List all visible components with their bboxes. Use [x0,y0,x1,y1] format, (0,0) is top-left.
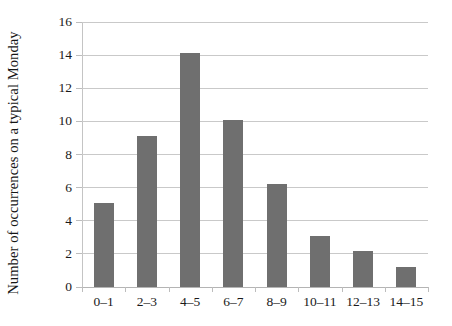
y-tick-label-wrap: 0 [42,280,72,294]
gridline [82,253,428,254]
y-tick-label: 8 [44,148,72,162]
y-tick-label: 0 [44,280,72,294]
gridline [82,154,428,155]
y-tick-label-wrap: 8 [42,148,72,162]
gridline [82,220,428,221]
x-tick-mark [125,287,126,292]
bar [180,53,200,287]
bar-chart: Number of occurrences on a typical Monda… [0,0,452,326]
plot-area [82,22,428,287]
gridline [82,187,428,188]
x-tick-mark [82,287,83,292]
y-tick-label: 2 [44,247,72,261]
x-tick-mark [169,287,170,292]
bar [223,120,243,287]
x-tick-mark [298,287,299,292]
gridline [82,22,428,23]
x-tick-mark [428,287,429,292]
y-tick-label-wrap: 16 [42,15,72,29]
y-tick-label-wrap: 6 [42,181,72,195]
x-tick-mark [342,287,343,292]
x-tick-mark [212,287,213,292]
bar [353,251,373,287]
y-tick-label-wrap: 10 [42,114,72,128]
y-tick-label-wrap: 4 [42,214,72,228]
y-tick-label: 4 [44,214,72,228]
gridline [82,88,428,89]
gridline [82,55,428,56]
bar [267,184,287,287]
y-tick-label-wrap: 14 [42,48,72,62]
y-tick-label: 12 [44,81,72,95]
y-tick-label: 10 [44,114,72,128]
bar [94,203,114,287]
y-axis-title: Number of occurrences on a typical Monda… [0,0,26,326]
bar [310,236,330,287]
y-tick-label: 14 [44,48,72,62]
gridline [82,121,428,122]
bar [396,267,416,287]
y-tick-label-wrap: 12 [42,81,72,95]
y-tick-label: 16 [44,15,72,29]
x-tick-label: 14–15 [376,295,436,309]
bar [137,136,157,287]
x-tick-mark [255,287,256,292]
x-tick-mark [385,287,386,292]
y-tick-label: 6 [44,181,72,195]
y-tick-label-wrap: 2 [42,247,72,261]
